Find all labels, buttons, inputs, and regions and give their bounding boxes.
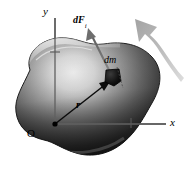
mass-element-label: dm [104,55,116,65]
origin-label: O [27,128,35,139]
diagram-canvas [0,0,184,169]
rigid-body [16,38,160,155]
force-vector-label: dFi [73,15,87,28]
force-vector-label-subscript: i [85,22,87,30]
origin-dot [52,121,57,126]
force-vector-label-base: dF [73,14,85,25]
rigid-body-bottom-shading [16,38,160,155]
x-axis-label: x [170,117,175,128]
y-axis-label: y [43,6,48,17]
physics-diagram-figure: y x O r dm dFi [0,0,184,169]
position-vector-label: r [76,99,80,110]
